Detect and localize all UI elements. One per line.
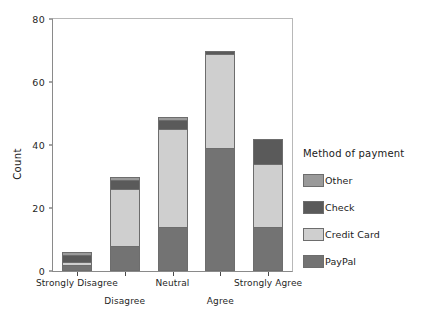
legend-label: Check [325,202,355,213]
y-axis-tick-label: 60 [0,77,52,88]
x-axis-tick-mark [173,272,174,276]
bar-segment-paypal [110,246,140,271]
bar-strongly-agree [253,139,283,271]
y-axis-tick-mark [49,82,52,83]
x-axis-tick-label: Strongly Agree [234,278,302,288]
y-axis-tick-mark [49,19,52,20]
y-axis-tick-label: 0 [0,266,52,277]
y-axis-tick-label: 40 [0,140,52,151]
legend-swatch [303,174,324,187]
x-axis-tick-mark [77,272,78,276]
legend-item[interactable]: Other [303,173,428,187]
x-axis-tick-mark [220,272,221,276]
y-axis-tick-label: 20 [0,203,52,214]
stacked-bar-chart: Count 020406080 Strongly DisagreeDisagre… [0,0,431,328]
legend-swatch [303,201,324,214]
legend: Method of payment OtherCheckCredit CardP… [303,148,428,281]
legend-item[interactable]: Check [303,200,428,214]
bar-agree [205,51,235,271]
legend-title: Method of payment [303,148,428,159]
x-axis-tick-label: Neutral [156,278,190,288]
legend-item[interactable]: Credit Card [303,227,428,241]
x-axis-tick-label: Strongly Disagree [36,278,118,288]
legend-label: PayPal [325,256,356,267]
bar-segment-paypal [205,148,235,271]
bar-disagree [110,177,140,271]
legend-label: Credit Card [325,229,380,240]
y-axis-title: Count [12,148,23,180]
bar-segment-paypal [158,227,188,271]
legend-swatch [303,228,324,241]
legend-item[interactable]: PayPal [303,254,428,268]
y-axis-tick-label: 80 [0,14,52,25]
x-axis-tick-mark [268,272,269,276]
bar-segment-check [158,120,188,129]
bar-segment-paypal [62,265,92,271]
bar-segment-credit-card [205,54,235,149]
bar-segment-credit-card [158,129,188,227]
legend-label: Other [325,175,352,186]
y-axis-tick-mark [49,271,52,272]
bar-segment-check [110,180,140,189]
x-axis-tick-label: Agree [207,296,234,306]
y-axis-tick-mark [49,145,52,146]
x-axis-tick-label: Disagree [104,296,145,306]
bar-segment-credit-card [110,189,140,246]
y-axis-tick-mark [49,208,52,209]
x-axis-tick-mark [125,272,126,276]
bar-segment-paypal [253,227,283,271]
legend-swatch [303,255,324,268]
bar-neutral [158,117,188,271]
plot-area [53,19,292,271]
bar-segment-credit-card [253,164,283,227]
bar-strongly-disagree [62,252,92,271]
bar-segment-check [253,139,283,164]
